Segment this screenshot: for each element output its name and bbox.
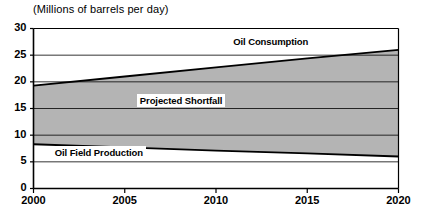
chart-container: (Millions of barrels per day) 0510152025…	[0, 0, 421, 223]
y-axis-label-10: 10	[1, 128, 27, 140]
y-axis-label-20: 20	[1, 74, 27, 86]
x-axis-label-2010: 2010	[191, 194, 241, 206]
x-axis-label-2005: 2005	[100, 194, 150, 206]
x-axis-label-2020: 2020	[374, 194, 421, 206]
x-axis-label-2015: 2015	[282, 194, 332, 206]
band-label-projected-shortfall: Projected Shortfall	[137, 94, 226, 107]
series-label-oil-consumption: Oil Consumption	[230, 35, 311, 48]
y-axis-label-5: 5	[1, 154, 27, 166]
chart-plot-area	[0, 0, 421, 223]
y-axis-label-25: 25	[1, 48, 27, 60]
y-axis-label-30: 30	[1, 21, 27, 33]
series-label-oil-field-production: Oil Field Production	[52, 146, 146, 159]
y-axis-label-0: 0	[1, 181, 27, 193]
x-axis-label-2000: 2000	[9, 194, 59, 206]
y-axis-label-15: 15	[1, 101, 27, 113]
